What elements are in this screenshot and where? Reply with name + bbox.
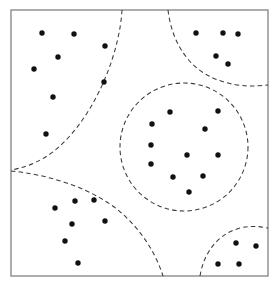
data-point <box>101 79 106 84</box>
data-point <box>91 197 96 202</box>
data-point <box>235 31 240 36</box>
data-point <box>31 66 36 71</box>
data-point <box>170 174 175 179</box>
data-point <box>193 30 198 35</box>
data-point <box>39 30 44 35</box>
data-point <box>200 173 205 178</box>
data-point <box>148 142 153 147</box>
data-point <box>52 205 57 210</box>
data-point <box>149 121 154 126</box>
data-point <box>186 189 191 194</box>
data-point <box>71 31 76 36</box>
data-point <box>72 198 77 203</box>
data-point <box>148 161 153 166</box>
data-point <box>253 243 258 248</box>
data-point <box>184 152 189 157</box>
data-point <box>43 131 48 136</box>
data-point <box>102 43 107 48</box>
data-point <box>215 261 220 266</box>
data-point <box>236 261 241 266</box>
data-point <box>55 54 60 59</box>
cluster-scatter-chart <box>0 0 278 286</box>
data-point <box>225 61 230 66</box>
data-point <box>102 218 107 223</box>
data-point <box>215 108 220 113</box>
figure-root <box>0 0 278 286</box>
data-point <box>75 260 80 265</box>
data-point <box>202 126 207 131</box>
data-point <box>167 109 172 114</box>
data-point <box>233 240 238 245</box>
data-point <box>220 30 225 35</box>
plot-frame <box>11 10 268 276</box>
data-point <box>213 53 218 58</box>
data-point <box>50 94 55 99</box>
data-point <box>62 238 67 243</box>
data-point <box>215 152 220 157</box>
data-point <box>69 221 74 226</box>
